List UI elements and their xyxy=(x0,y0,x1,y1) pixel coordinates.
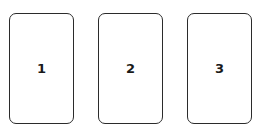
card-3[interactable]: 3 xyxy=(187,13,252,124)
card-label: 3 xyxy=(215,62,224,75)
card-label: 2 xyxy=(126,62,135,75)
card-1[interactable]: 1 xyxy=(9,13,74,124)
card-label: 1 xyxy=(37,62,46,75)
card-2[interactable]: 2 xyxy=(98,13,163,124)
